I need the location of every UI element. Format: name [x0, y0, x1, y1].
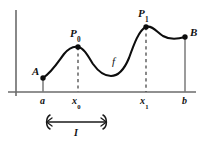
- x-tick-label-x0: x0: [72, 96, 80, 109]
- interval-label-I-text: I: [74, 127, 78, 138]
- function-name-label-text: f: [112, 55, 115, 67]
- point-label-A-text: A: [32, 65, 39, 77]
- point-marker-A: [40, 75, 45, 80]
- figure-container: A P0 P1 B f a x0 x1 b I: [0, 0, 205, 150]
- function-graph-svg: [0, 0, 205, 150]
- point-marker-P0: [75, 44, 80, 49]
- point-label-P0-subscript: 0: [77, 36, 81, 44]
- point-label-A: A: [32, 66, 39, 77]
- point-label-P1-subscript: 1: [145, 16, 149, 24]
- point-label-P0: P0: [70, 28, 80, 42]
- x-tick-label-x1-subscript: 1: [145, 103, 148, 110]
- point-label-P1-text: P: [138, 7, 145, 19]
- x-tick-label-x0-subscript: 0: [77, 103, 80, 110]
- point-label-B: B: [190, 27, 197, 38]
- point-label-P0-text: P: [70, 27, 77, 39]
- x-tick-label-a: a: [40, 96, 45, 106]
- function-curve: [43, 27, 185, 78]
- x-tick-label-b-text: b: [182, 95, 187, 106]
- point-marker-B: [182, 34, 187, 39]
- point-label-B-text: B: [190, 26, 197, 38]
- interval-label-I: I: [74, 128, 78, 138]
- x-tick-label-x1: x1: [140, 96, 148, 109]
- point-label-P1: P1: [138, 8, 148, 22]
- point-marker-P1: [143, 24, 148, 29]
- x-tick-label-a-text: a: [40, 95, 45, 106]
- x-tick-label-b: b: [182, 96, 187, 106]
- function-name-label: f: [112, 56, 115, 67]
